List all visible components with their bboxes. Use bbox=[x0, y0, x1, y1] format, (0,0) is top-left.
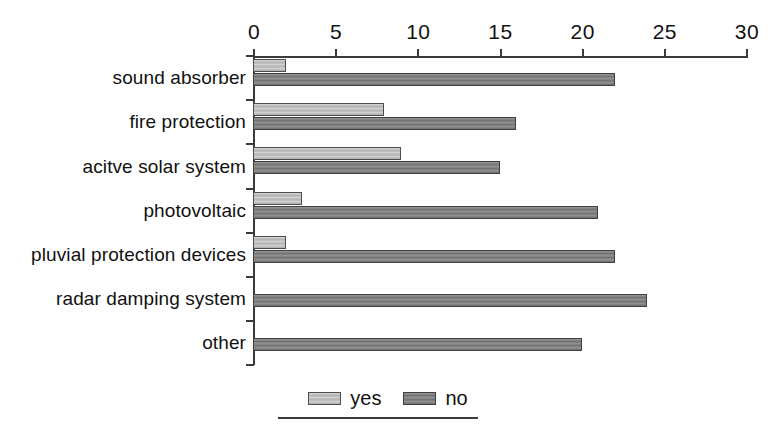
light-gray-swatch-icon bbox=[308, 392, 341, 405]
y-axis-tick-mark bbox=[246, 320, 254, 322]
dark-gray-swatch-icon bbox=[403, 392, 436, 405]
bar-yes bbox=[253, 59, 286, 72]
y-axis-tick-mark bbox=[246, 276, 254, 278]
category-label: photovoltaic bbox=[143, 200, 246, 222]
bar-no bbox=[253, 338, 582, 351]
y-axis-tick-mark bbox=[246, 188, 254, 190]
x-axis-tick-label: 0 bbox=[248, 20, 260, 44]
x-axis-tick-label: 10 bbox=[406, 20, 430, 44]
x-axis-tick-mark bbox=[335, 49, 337, 56]
category-label: other bbox=[202, 332, 246, 354]
bar-yes bbox=[253, 147, 401, 160]
x-axis-tick-label: 30 bbox=[735, 20, 759, 44]
x-axis-tick-label: 20 bbox=[570, 20, 594, 44]
category-label: acitve solar system bbox=[83, 156, 246, 178]
x-axis-tick-mark bbox=[664, 49, 666, 56]
legend-underline bbox=[278, 417, 478, 419]
x-axis-tick-mark bbox=[582, 49, 584, 56]
y-axis-tick-mark bbox=[246, 143, 254, 145]
x-axis-tick-mark bbox=[500, 49, 502, 56]
legend-entry-no[interactable]: no bbox=[403, 388, 467, 408]
x-axis-tick-label: 5 bbox=[330, 20, 342, 44]
bar-no bbox=[253, 250, 615, 263]
category-label: sound absorber bbox=[113, 67, 246, 89]
bar-no bbox=[253, 117, 516, 130]
y-axis-tick-mark bbox=[246, 364, 254, 366]
legend-label: yes bbox=[350, 388, 381, 408]
bar-yes bbox=[253, 236, 286, 249]
category-label: fire protection bbox=[129, 111, 246, 133]
legend-entry-yes[interactable]: yes bbox=[308, 388, 381, 408]
y-axis-tick-mark bbox=[246, 232, 254, 234]
bar-no bbox=[253, 294, 647, 307]
bar-no bbox=[253, 73, 615, 86]
x-axis-tick-mark bbox=[746, 49, 748, 56]
bar-chart: 051015202530 sound absorberfire protecti… bbox=[0, 0, 776, 436]
bar-no bbox=[253, 161, 500, 174]
x-axis-tick-mark bbox=[417, 49, 419, 56]
bar-no bbox=[253, 206, 598, 219]
bar-yes bbox=[253, 192, 302, 205]
category-label: pluvial protection devices bbox=[31, 244, 246, 266]
legend-label: no bbox=[445, 388, 467, 408]
bar-yes bbox=[253, 103, 384, 116]
chart-legend: yesno bbox=[0, 388, 776, 408]
x-axis-tick-label: 25 bbox=[653, 20, 677, 44]
y-axis-tick-mark bbox=[246, 55, 254, 57]
category-axis-labels: sound absorberfire protectionacitve sola… bbox=[0, 0, 246, 436]
category-label: radar damping system bbox=[56, 288, 246, 310]
y-axis-tick-mark bbox=[246, 99, 254, 101]
x-axis-line bbox=[254, 56, 748, 58]
x-axis-tick-label: 15 bbox=[488, 20, 512, 44]
